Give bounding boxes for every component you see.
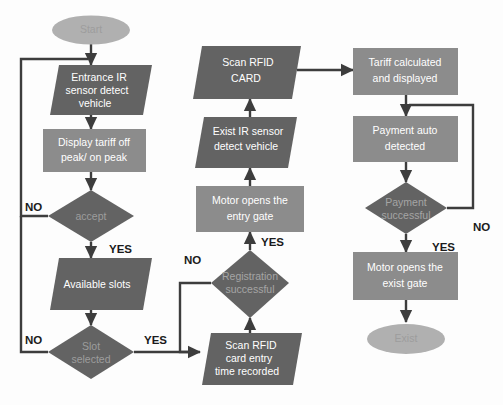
node-available-slots[interactable]: Available slots (50, 258, 152, 310)
svg-text:Display tariff off: Display tariff off (58, 136, 130, 148)
svg-text:Registration: Registration (222, 270, 278, 282)
node-accept-decision[interactable]: accept (48, 190, 134, 242)
edge-label-registration-no: NO (184, 254, 201, 266)
node-entrance-ir-sensor[interactable]: Entrance IR sensor detect vehicle (50, 65, 152, 115)
svg-text:Scan RFID: Scan RFID (222, 56, 274, 68)
svg-text:peak/ on peak: peak/ on peak (61, 151, 128, 163)
svg-text:Payment auto: Payment auto (373, 124, 438, 136)
edge-registration-no-loop (180, 283, 211, 352)
svg-text:Available slots: Available slots (64, 278, 131, 290)
svg-text:successful: successful (225, 283, 274, 295)
node-display-tariff[interactable]: Display tariff off peak/ on peak (43, 129, 146, 172)
node-start[interactable]: Start (52, 16, 130, 45)
flowchart-svg: Start Entrance IR sensor detect vehicle … (0, 0, 503, 405)
edge-label-slot-no: NO (25, 334, 42, 346)
svg-text:sensor detect: sensor detect (65, 84, 128, 96)
node-motor-entry-gate[interactable]: Motor opens the entry gate (196, 186, 304, 232)
svg-text:Slot: Slot (82, 340, 100, 352)
edge-label-payment-no: NO (473, 221, 490, 233)
svg-text:detected: detected (385, 140, 425, 152)
svg-text:Motor opens the: Motor opens the (367, 261, 443, 273)
svg-text:Scan RFID: Scan RFID (225, 339, 277, 351)
svg-text:Start: Start (80, 23, 102, 35)
edge-label-registration-yes: YES (261, 236, 284, 248)
edge-label-payment-yes: YES (432, 241, 455, 253)
svg-text:accept: accept (76, 210, 107, 222)
flowchart-canvas: Start Entrance IR sensor detect vehicle … (0, 0, 503, 405)
node-slot-selected-decision[interactable]: Slot selected (48, 325, 134, 379)
svg-text:and displayed: and displayed (373, 72, 438, 84)
svg-text:selected: selected (71, 353, 110, 365)
svg-text:detect vehicle: detect vehicle (214, 140, 278, 152)
svg-text:time recorded: time recorded (215, 365, 279, 377)
svg-text:CARD: CARD (231, 72, 261, 84)
edge-label-accept-no: NO (25, 201, 42, 213)
svg-text:Payment: Payment (385, 196, 427, 208)
node-exist[interactable]: Exist (367, 324, 445, 354)
svg-text:entry gate: entry gate (227, 210, 274, 222)
node-tariff-calculated[interactable]: Tariff calculated and displayed (353, 48, 458, 95)
node-exist-ir-sensor[interactable]: Exist IR sensor detect vehicle (195, 117, 297, 168)
edge-slot-no-loop (21, 216, 48, 352)
node-motor-exist-gate[interactable]: Motor opens the exist gate (353, 252, 458, 300)
svg-text:card entry: card entry (226, 352, 273, 364)
svg-text:Exist: Exist (395, 332, 418, 344)
node-scan-rfid-card-entry[interactable]: Scan RFID card entry time recorded (202, 333, 302, 385)
node-scan-rfid-card[interactable]: Scan RFID CARD (193, 46, 301, 99)
svg-text:successful: successful (381, 209, 430, 221)
node-registration-decision[interactable]: Registration successful (211, 250, 289, 318)
svg-text:Exist IR sensor: Exist IR sensor (213, 125, 284, 137)
node-payment-auto-detected[interactable]: Payment auto detected (353, 116, 458, 162)
edge-label-slot-yes: YES (144, 334, 167, 346)
svg-text:vehicle: vehicle (79, 97, 112, 109)
svg-text:exist gate: exist gate (383, 277, 428, 289)
svg-text:Tariff calculated: Tariff calculated (369, 56, 442, 68)
svg-text:Entrance IR: Entrance IR (71, 71, 127, 83)
svg-text:Motor opens the: Motor opens the (212, 194, 288, 206)
edge-label-accept-yes: YES (109, 243, 132, 255)
node-payment-successful-decision[interactable]: Payment successful (365, 182, 447, 234)
